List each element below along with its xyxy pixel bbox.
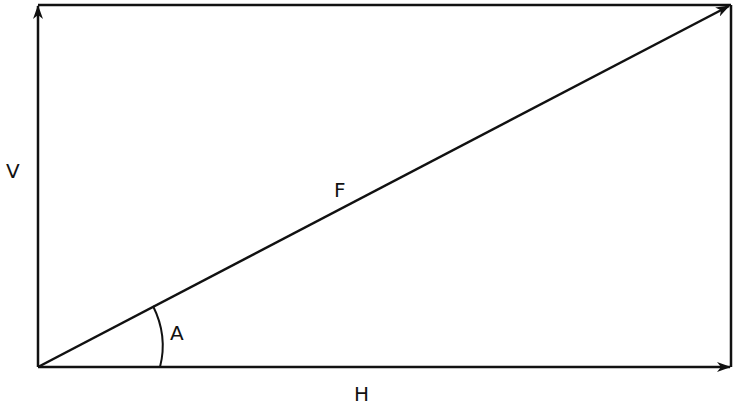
label-v: V bbox=[6, 161, 20, 181]
angle-arc bbox=[153, 306, 163, 367]
force-vector bbox=[38, 6, 729, 367]
force-diagram bbox=[0, 0, 734, 404]
label-h: H bbox=[354, 384, 369, 404]
label-a: A bbox=[170, 323, 184, 343]
label-f: F bbox=[334, 180, 346, 200]
